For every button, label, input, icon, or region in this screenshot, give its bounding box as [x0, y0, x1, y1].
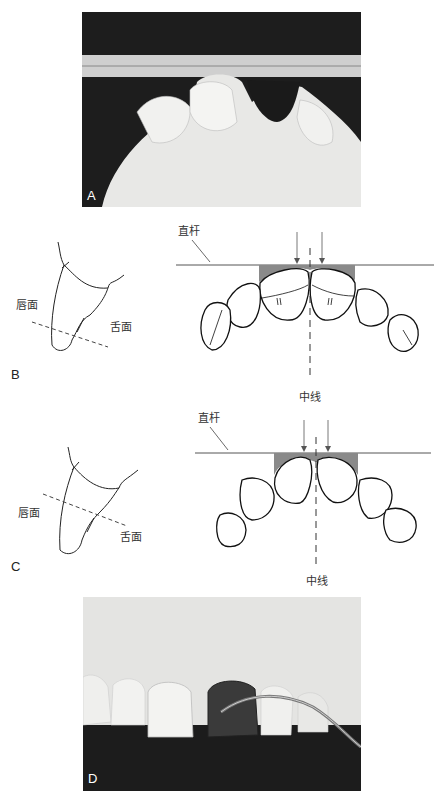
label-midline-b: 中线	[299, 388, 321, 404]
cut-line-c	[43, 494, 127, 526]
panel-letter-b: B	[11, 367, 20, 382]
dental-arch-b	[176, 232, 434, 376]
label-labial-b: 唇面	[16, 296, 38, 312]
label-straight-bar-c: 直杆	[198, 409, 220, 425]
cut-line-b	[32, 322, 108, 347]
label-straight-bar-b: 直杆	[178, 222, 200, 238]
label-lingual-c: 舌面	[120, 528, 142, 544]
photo-panel-d: D	[83, 597, 361, 791]
label-lingual-b: 舌面	[110, 318, 132, 334]
label-midline-c: 中线	[306, 572, 328, 588]
dental-arch-c	[195, 420, 431, 566]
panel-letter-c: C	[11, 559, 20, 574]
tooth-profile-b	[52, 242, 124, 350]
cast-labial-illustration	[83, 597, 361, 791]
label-labial-c: 唇面	[18, 504, 40, 520]
panel-letter-d: D	[88, 771, 97, 786]
